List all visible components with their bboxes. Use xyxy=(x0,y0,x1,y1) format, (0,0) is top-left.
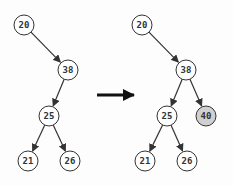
tree-node: 20 xyxy=(132,15,152,35)
edge-arrow xyxy=(171,79,182,106)
edge-arrow xyxy=(171,125,182,151)
node-label: 26 xyxy=(182,156,193,166)
edge-arrow xyxy=(53,125,65,151)
edge-arrow xyxy=(31,32,60,62)
tree-edges xyxy=(31,32,202,151)
edge-arrow xyxy=(53,79,64,106)
node-label: 21 xyxy=(140,156,151,166)
edge-arrow xyxy=(149,32,178,62)
tree-node: 21 xyxy=(135,151,155,171)
node-label: 38 xyxy=(63,65,74,75)
node-label: 25 xyxy=(44,111,55,121)
node-label: 25 xyxy=(162,111,173,121)
tree-node: 21 xyxy=(18,151,38,171)
bst-diagram: 2038252126203825402126 xyxy=(0,0,233,185)
node-label: 21 xyxy=(23,156,34,166)
tree-node: 40 xyxy=(196,106,216,126)
edge-arrow xyxy=(33,125,45,151)
tree-node: 26 xyxy=(60,151,80,171)
tree-node: 20 xyxy=(14,15,34,35)
tree-node: 25 xyxy=(39,106,59,126)
tree-node: 38 xyxy=(176,60,196,80)
tree-nodes: 2038252126203825402126 xyxy=(14,15,216,171)
edge-arrow xyxy=(190,79,202,106)
node-label: 26 xyxy=(65,156,76,166)
edge-arrow xyxy=(150,125,163,151)
node-label: 20 xyxy=(137,20,148,30)
tree-node: 26 xyxy=(177,151,197,171)
node-label: 20 xyxy=(19,20,30,30)
node-label: 40 xyxy=(201,111,212,121)
tree-node: 38 xyxy=(58,60,78,80)
tree-node: 25 xyxy=(157,106,177,126)
node-label: 38 xyxy=(181,65,192,75)
